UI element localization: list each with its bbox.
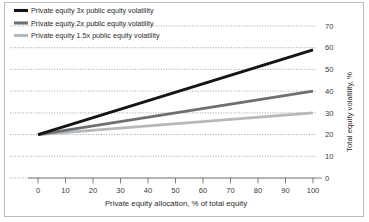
x-tick-label: 70 (226, 186, 234, 195)
y-tick-label: 40 (325, 87, 333, 96)
y-tick-label: 60 (325, 43, 333, 52)
volatility-line-chart: 0 10 20 30 40 50 60 70 Total equity vola… (0, 0, 369, 222)
y-axis-title: Total equity volatility, % (345, 72, 354, 152)
x-tick-label: 100 (307, 186, 320, 195)
series-line-3x (38, 50, 313, 135)
x-tick-label: 40 (144, 186, 152, 195)
x-axis (28, 178, 322, 183)
chart-legend: Private equity 3x public equity volatili… (14, 6, 160, 40)
y-tick-label: 10 (325, 152, 333, 161)
legend-item-3x[interactable]: Private equity 3x public equity volatili… (14, 6, 154, 15)
x-tick-label: 90 (281, 186, 289, 195)
series-group (38, 50, 313, 135)
y-axis-tick-labels: 0 10 20 30 40 50 60 70 (325, 22, 333, 183)
y-tick-label: 70 (325, 22, 333, 31)
x-axis-title: Private equity allocation, % of total eq… (105, 199, 247, 208)
x-axis-tick-labels: 0 10 20 30 40 50 60 70 80 90 100 (36, 186, 319, 195)
x-tick-label: 80 (254, 186, 262, 195)
x-tick-label: 30 (116, 186, 124, 195)
x-tick-label: 50 (171, 186, 179, 195)
x-tick-label: 0 (36, 186, 40, 195)
x-tick-label: 60 (199, 186, 207, 195)
y-tick-label: 20 (325, 130, 333, 139)
legend-label-2x: Private equity 2x public equity volatili… (31, 19, 154, 28)
x-tick-label: 10 (61, 186, 69, 195)
y-tick-label: 50 (325, 65, 333, 74)
y-tick-label: 30 (325, 109, 333, 118)
y-tick-label: 0 (325, 174, 329, 183)
series-line-1_5x (38, 113, 313, 135)
legend-label-1_5x: Private equity 1.5x public equity volati… (31, 31, 160, 40)
legend-label-3x: Private equity 3x public equity volatili… (31, 6, 154, 15)
series-line-2x (38, 91, 313, 135)
x-tick-label: 20 (89, 186, 97, 195)
legend-item-2x[interactable]: Private equity 2x public equity volatili… (14, 19, 154, 28)
gridlines (10, 26, 316, 178)
legend-item-1_5x[interactable]: Private equity 1.5x public equity volati… (14, 31, 160, 40)
